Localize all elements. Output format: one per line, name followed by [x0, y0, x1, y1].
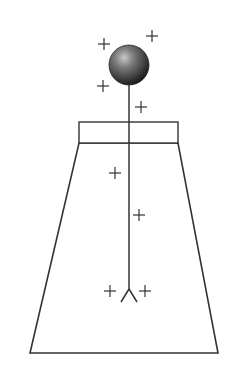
right-leaf	[129, 289, 137, 302]
flask-outline	[30, 143, 218, 353]
plus-charge-icon	[133, 209, 145, 221]
plus-charge-icon	[139, 285, 151, 297]
plus-charge-icon	[109, 167, 121, 179]
plus-charge-icon	[104, 285, 116, 297]
plus-charge-icon	[98, 38, 110, 50]
plus-charge-icon	[97, 80, 109, 92]
flask	[30, 143, 218, 353]
plus-charge-icon	[146, 30, 158, 42]
metal-leaves	[121, 289, 137, 302]
plus-charge-icon	[135, 101, 147, 113]
ball-sphere	[109, 45, 149, 85]
diagram-svg	[0, 0, 240, 380]
electroscope-diagram	[0, 0, 240, 380]
left-leaf	[121, 289, 129, 302]
metal-ball	[109, 45, 149, 85]
